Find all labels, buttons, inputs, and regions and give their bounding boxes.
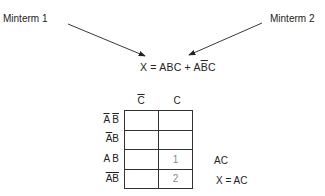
arrow-minterm-1	[68, 24, 145, 56]
kmap-cell-minterm-2: 2	[159, 169, 193, 189]
kmap-row	[125, 111, 193, 131]
col-header-c: C	[167, 95, 187, 106]
boolean-equation: X = ABC + ABC	[140, 61, 216, 73]
kmap-cell	[125, 169, 159, 189]
equation-lhs: X	[140, 61, 147, 73]
kmap-cell	[125, 111, 159, 131]
kmap-cell	[125, 150, 159, 170]
equation-term-2: ABC	[193, 61, 215, 73]
kmap-cell	[125, 130, 159, 150]
equation-equals: =	[150, 61, 156, 73]
row-header-a-b: A B	[89, 153, 119, 164]
row-header-abar-bbar: A B	[89, 114, 119, 125]
arrow-minterm-2	[189, 23, 262, 55]
kmap-cell	[159, 130, 193, 150]
kmap-row: 1	[125, 150, 193, 170]
kmap-row	[125, 130, 193, 150]
karnaugh-map: 1 2	[124, 110, 193, 189]
row-header-abar-b: AB	[89, 133, 119, 144]
kmap-row: 2	[125, 169, 193, 189]
equation-plus: +	[185, 61, 191, 73]
kmap-cell-minterm-1: 1	[159, 150, 193, 170]
group-annotation: AC	[214, 155, 228, 166]
row-header-a-bbar: AB	[89, 173, 119, 184]
col-header-c-bar: C	[131, 95, 151, 106]
equation-term-1: ABC	[159, 61, 181, 73]
result-equation: X = AC	[216, 175, 247, 186]
kmap-cell	[159, 111, 193, 131]
